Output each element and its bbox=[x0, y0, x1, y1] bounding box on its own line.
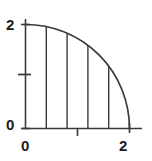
quarter-circle-curve bbox=[26, 25, 130, 129]
figure-container: 2 0 0 2 bbox=[0, 0, 152, 161]
x-axis-label-2: 2 bbox=[119, 138, 127, 153]
y-axis-label-2: 2 bbox=[6, 17, 14, 32]
x-axis-label-0: 0 bbox=[21, 138, 29, 153]
y-axis-label-0: 0 bbox=[6, 117, 14, 132]
